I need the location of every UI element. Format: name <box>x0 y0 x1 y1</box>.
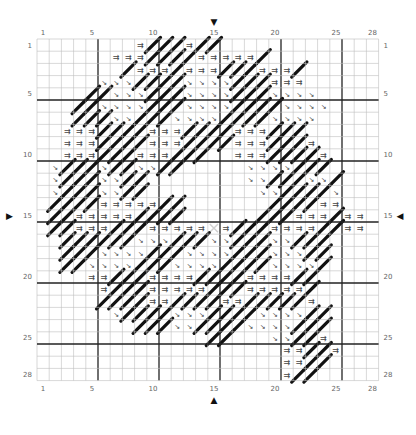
diagonal-arrow-symbol: ↘ <box>199 115 205 123</box>
double-arrow-symbol: ⇉ <box>308 224 315 233</box>
double-arrow-symbol: ⇉ <box>284 224 291 233</box>
double-arrow-symbol: ⇉ <box>150 297 157 306</box>
double-arrow-symbol: ⇉ <box>357 212 364 221</box>
diagonal-arrow-symbol: ↘ <box>113 250 119 258</box>
double-arrow-symbol: ⇉ <box>125 53 132 62</box>
cross-stitch-chart: ⇉⇉⇉⇉⇉⇉⇉⇉⇉⇉⇉⇉⇉⇉⇉⇉⇉⇉⇉↘↘↘↘↘↘↘⇉⇉⇉↘↘↘↘↘↘↘↘↘↘↘… <box>0 0 416 435</box>
row-label: 5 <box>28 90 32 98</box>
center-marker-right-icon: ◀ <box>397 211 404 221</box>
column-label: 25 <box>331 29 340 37</box>
diagonal-arrow-symbol: ↘ <box>174 115 180 123</box>
diagonal-arrow-symbol: ↘ <box>211 79 217 87</box>
row-label: 28 <box>384 371 393 379</box>
diagonal-arrow-symbol: ↘ <box>162 237 168 245</box>
column-label: 10 <box>148 385 157 393</box>
row-label: 15 <box>23 212 32 220</box>
diagonal-arrow-symbol: ↘ <box>174 323 180 331</box>
double-arrow-symbol: ⇉ <box>235 139 242 148</box>
double-arrow-symbol: ⇉ <box>296 212 303 221</box>
diagonal-arrow-symbol: ↘ <box>89 262 95 270</box>
diagonal-arrow-symbol: ↘ <box>211 91 217 99</box>
double-arrow-symbol: ⇉ <box>345 212 352 221</box>
diagonal-arrow-symbol: ↘ <box>260 323 266 331</box>
diagonal-arrow-symbol: ↘ <box>284 250 290 258</box>
diagonal-arrow-symbol: ↘ <box>199 79 205 87</box>
diagonal-arrow-symbol: ↘ <box>138 103 144 111</box>
diagonal-arrow-symbol: ↘ <box>150 237 156 245</box>
center-marker-left-icon: ▶ <box>6 211 13 221</box>
diagonal-arrow-symbol: ↘ <box>199 250 205 258</box>
column-label: 15 <box>209 385 218 393</box>
double-arrow-symbol: ⇉ <box>162 224 169 233</box>
column-label: 1 <box>41 29 45 37</box>
double-arrow-symbol: ⇉ <box>101 200 108 209</box>
diagonal-arrow-symbol: ↘ <box>187 250 193 258</box>
double-arrow-symbol: ⇉ <box>125 212 132 221</box>
diagonal-arrow-symbol: ↘ <box>138 91 144 99</box>
diagonal-arrow-symbol: ↘ <box>101 176 107 184</box>
double-arrow-symbol: ⇉ <box>162 285 169 294</box>
double-arrow-symbol: ⇉ <box>113 212 120 221</box>
double-arrow-symbol: ⇉ <box>174 127 181 136</box>
double-arrow-symbol: ⇉ <box>272 273 279 282</box>
double-arrow-symbol: ⇉ <box>259 151 266 160</box>
double-arrow-symbol: ⇉ <box>259 127 266 136</box>
diagonal-arrow-symbol: ↘ <box>174 311 180 319</box>
diagonal-arrow-symbol: ↘ <box>272 115 278 123</box>
double-arrow-symbol: ⇉ <box>211 53 218 62</box>
diagonal-arrow-symbol: ↘ <box>272 311 278 319</box>
double-arrow-symbol: ⇉ <box>308 139 315 148</box>
double-arrow-symbol: ⇉ <box>101 224 108 233</box>
diagonal-arrow-symbol: ↘ <box>113 79 119 87</box>
diagonal-arrow-symbol: ↘ <box>309 262 315 270</box>
diagonal-arrow-symbol: ↘ <box>284 335 290 343</box>
double-arrow-symbol: ⇉ <box>211 66 218 75</box>
double-arrow-symbol: ⇉ <box>284 346 291 355</box>
diagonal-arrow-symbol: ↘ <box>138 164 144 172</box>
double-arrow-symbol: ⇉ <box>235 127 242 136</box>
diagonal-arrow-symbol: ↘ <box>113 176 119 184</box>
diagonal-arrow-symbol: ↘ <box>52 189 58 197</box>
double-arrow-symbol: ⇉ <box>198 53 205 62</box>
double-arrow-symbol: ⇉ <box>76 212 83 221</box>
column-label: 15 <box>209 29 218 37</box>
diagonal-arrow-symbol: ↘ <box>187 115 193 123</box>
diagonal-arrow-symbol: ↘ <box>284 164 290 172</box>
double-arrow-symbol: ⇉ <box>223 224 230 233</box>
double-arrow-symbol: ⇉ <box>259 66 266 75</box>
double-arrow-symbol: ⇉ <box>296 346 303 355</box>
double-arrow-symbol: ⇉ <box>76 151 83 160</box>
double-arrow-symbol: ⇉ <box>64 151 71 160</box>
diagonal-arrow-symbol: ↘ <box>126 115 132 123</box>
diagonal-arrow-symbol: ↘ <box>309 176 315 184</box>
diagonal-arrow-symbol: ↘ <box>187 91 193 99</box>
diagonal-arrow-symbol: ↘ <box>260 311 266 319</box>
double-arrow-symbol: ⇉ <box>296 285 303 294</box>
double-arrow-symbol: ⇉ <box>162 151 169 160</box>
diagonal-arrow-symbol: ↘ <box>272 189 278 197</box>
diagonal-arrow-symbol: ↘ <box>187 262 193 270</box>
double-arrow-symbol: ⇉ <box>150 151 157 160</box>
double-arrow-symbol: ⇉ <box>259 273 266 282</box>
diagonal-arrow-symbol: ↘ <box>101 189 107 197</box>
double-arrow-symbol: ⇉ <box>101 285 108 294</box>
diagonal-arrow-symbol: ↘ <box>284 237 290 245</box>
diagonal-arrow-symbol: ↘ <box>272 237 278 245</box>
double-arrow-symbol: ⇉ <box>89 273 96 282</box>
double-arrow-symbol: ⇉ <box>113 53 120 62</box>
diagonal-arrow-symbol: ↘ <box>150 164 156 172</box>
diagonal-arrow-symbol: ↘ <box>199 262 205 270</box>
diagonal-arrow-symbol: ↘ <box>113 189 119 197</box>
double-arrow-symbol: ⇉ <box>247 273 254 282</box>
diagonal-arrow-symbol: ↘ <box>101 103 107 111</box>
column-label: 25 <box>331 385 340 393</box>
double-arrow-symbol: ⇉ <box>162 297 169 306</box>
column-label: 28 <box>368 385 377 393</box>
double-arrow-symbol: ⇉ <box>284 285 291 294</box>
double-arrow-symbol: ⇉ <box>308 297 315 306</box>
double-arrow-symbol: ⇉ <box>150 224 157 233</box>
diagonal-arrow-symbol: ↘ <box>296 115 302 123</box>
diagonal-arrow-symbol: ↘ <box>113 262 119 270</box>
double-arrow-symbol: ⇉ <box>320 334 327 343</box>
diagonal-arrow-symbol: ↘ <box>174 262 180 270</box>
